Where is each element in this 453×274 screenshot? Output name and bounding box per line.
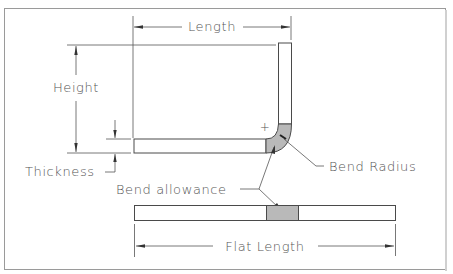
bend-center-mark: + (260, 120, 271, 134)
flat-bend-zone (267, 206, 299, 221)
flat-pattern (135, 206, 396, 221)
diagram-frame: Length Height Thickness (0, 0, 453, 274)
height-label: Height (53, 80, 99, 95)
bend-allowance-label: Bend allowance (116, 182, 227, 197)
length-label: Length (188, 19, 236, 34)
bend-radius-label: Bend Radius (329, 159, 416, 174)
horizontal-flange (134, 139, 266, 153)
flat-length-label: Flat Length (225, 239, 304, 254)
flat-strip (135, 206, 396, 221)
thickness-label: Thickness (25, 164, 95, 179)
bend-diagram: Length Height Thickness (0, 0, 453, 274)
vertical-flange (279, 43, 292, 124)
